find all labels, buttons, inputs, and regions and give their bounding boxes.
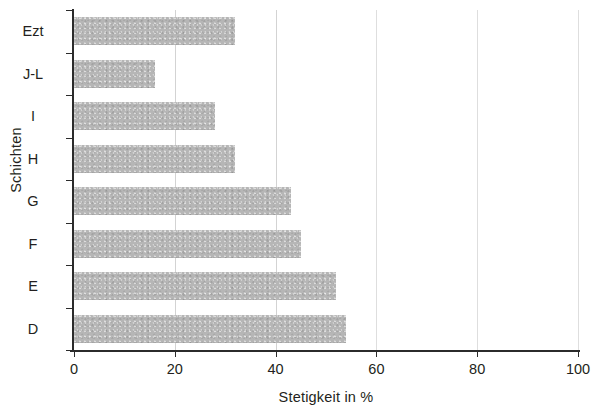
- x-tick-label-20: 20: [167, 361, 183, 377]
- x-tick-label-60: 60: [368, 361, 384, 377]
- x-tick-label-80: 80: [469, 361, 485, 377]
- bar-Ezt: [74, 17, 235, 45]
- x-axis-title: Stetigkeit in %: [74, 389, 578, 405]
- y-tick-label-D: D: [2, 321, 64, 337]
- x-tick-40: [276, 350, 277, 357]
- y-tick-label-G: G: [2, 193, 64, 209]
- bar-chart: Schichten DEFGHIJ-LEzt 020406080100 Stet…: [0, 0, 591, 416]
- y-tick-label-I: I: [2, 108, 64, 124]
- bar-G: [74, 187, 291, 215]
- bar-J-L: [74, 60, 155, 88]
- gridline-80: [477, 10, 478, 350]
- x-axis-line: [70, 350, 580, 352]
- x-tick-80: [477, 350, 478, 357]
- gridline-100: [578, 10, 579, 350]
- x-tick-100: [578, 350, 579, 357]
- y-tick-label-E: E: [2, 278, 64, 294]
- bar-D: [74, 315, 346, 343]
- gridline-60: [376, 10, 377, 350]
- y-tick-label-Ezt: Ezt: [2, 23, 64, 39]
- bar-E: [74, 272, 336, 300]
- y-axis-labels: DEFGHIJ-LEzt: [0, 0, 64, 416]
- x-tick-label-0: 0: [70, 361, 78, 377]
- x-tick-label-40: 40: [268, 361, 284, 377]
- y-tick-label-J-L: J-L: [2, 66, 64, 82]
- bar-I: [74, 102, 215, 130]
- x-tick-0: [74, 350, 75, 357]
- bar-H: [74, 145, 235, 173]
- x-tick-60: [376, 350, 377, 357]
- y-tick-label-F: F: [2, 236, 64, 252]
- x-tick-20: [175, 350, 176, 357]
- y-tick-label-H: H: [2, 151, 64, 167]
- bar-F: [74, 230, 301, 258]
- x-tick-label-100: 100: [566, 361, 590, 377]
